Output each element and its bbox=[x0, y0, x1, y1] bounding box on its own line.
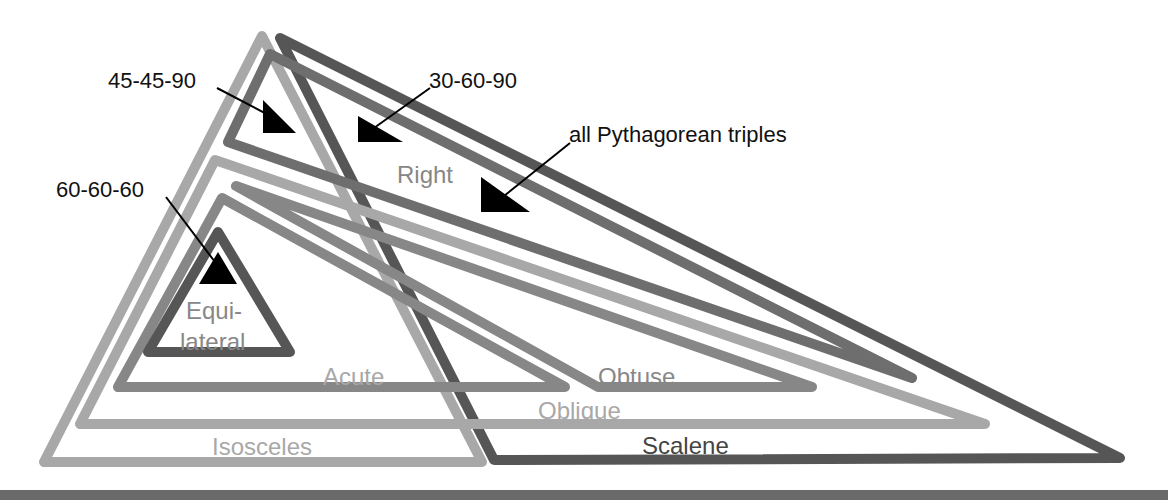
triangle-diagram: 45-45-90 30-60-90 all Pythagorean triple… bbox=[0, 0, 1168, 500]
label-pythagorean: all Pythagorean triples bbox=[569, 122, 787, 147]
label-obtuse: Obtuse bbox=[598, 363, 675, 390]
label-acute: Acute bbox=[323, 363, 384, 390]
label-isosceles: Isosceles bbox=[212, 433, 312, 460]
triangle-45-45-90-icon bbox=[263, 100, 296, 133]
label-right: Right bbox=[397, 161, 453, 188]
label-45-45-90: 45-45-90 bbox=[108, 68, 196, 93]
label-60-60-60: 60-60-60 bbox=[56, 177, 144, 202]
label-oblique: Oblique bbox=[538, 397, 621, 424]
label-equilateral-1: Equi- bbox=[186, 297, 242, 324]
label-30-60-90: 30-60-90 bbox=[429, 68, 517, 93]
bottom-divider bbox=[0, 490, 1168, 500]
label-equilateral-2: lateral bbox=[180, 328, 245, 355]
label-scalene: Scalene bbox=[642, 432, 729, 459]
